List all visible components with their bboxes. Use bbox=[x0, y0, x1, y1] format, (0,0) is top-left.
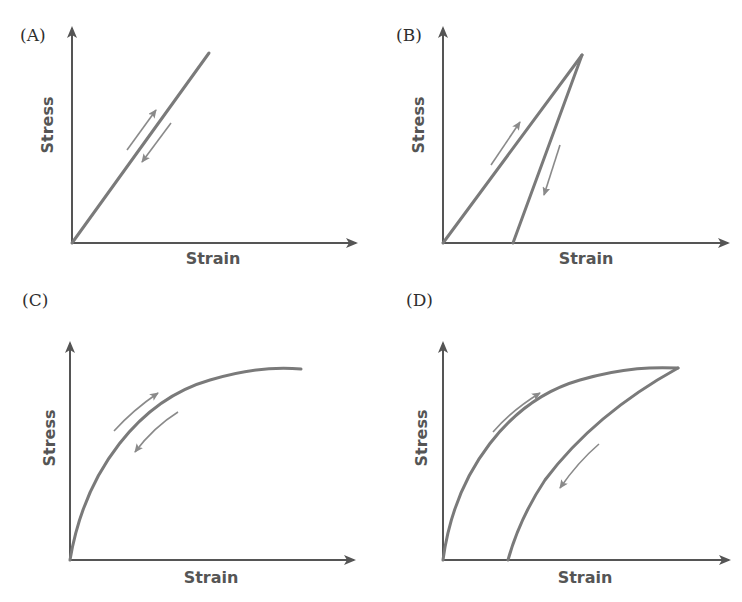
y-axis-label: Stress bbox=[38, 97, 57, 154]
loading-unloading-line bbox=[72, 53, 209, 243]
loading-arrow-icon bbox=[493, 393, 540, 432]
x-axis-label: Strain bbox=[184, 568, 239, 587]
panel-c: (C) Strain Stress bbox=[22, 290, 354, 587]
y-axis-label: Stress bbox=[40, 410, 59, 467]
stress-strain-figure: (A) Strain Stress (B) Strain Stress (C) … bbox=[0, 0, 742, 602]
unloading-arrow-icon bbox=[560, 444, 599, 488]
x-axis-label: Strain bbox=[558, 568, 613, 587]
unloading-line bbox=[513, 55, 582, 243]
y-axis-label: Stress bbox=[409, 97, 428, 154]
panel-b-label: (B) bbox=[396, 25, 422, 45]
x-axis-label: Strain bbox=[559, 249, 614, 268]
panel-c-label: (C) bbox=[22, 290, 48, 310]
panel-d: (D) Strain Stress bbox=[406, 290, 729, 587]
panel-a: (A) Strain Stress bbox=[20, 25, 356, 268]
loading-curve bbox=[443, 368, 678, 560]
loading-unloading-curve bbox=[70, 368, 301, 560]
panel-d-label: (D) bbox=[406, 290, 433, 310]
unloading-arrow-icon bbox=[142, 123, 171, 162]
y-axis-label: Stress bbox=[412, 410, 431, 467]
panel-b: (B) Strain Stress bbox=[396, 25, 728, 268]
loading-line bbox=[443, 55, 582, 243]
x-axis-label: Strain bbox=[186, 249, 241, 268]
panel-a-label: (A) bbox=[20, 25, 46, 45]
